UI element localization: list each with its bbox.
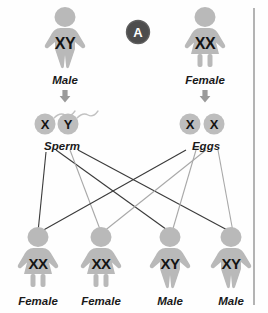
offspring-label: Female	[81, 295, 121, 307]
parent-mother: XXFemale	[185, 7, 226, 103]
cross-line-1	[38, 152, 46, 232]
gamete-letter: X	[186, 117, 195, 132]
cross-line-6	[172, 150, 196, 232]
offspring-3: XYMale	[150, 227, 191, 307]
down-arrow-icon	[60, 90, 71, 103]
cross-line-3	[70, 150, 101, 232]
offspring-1: XXFemale	[18, 227, 59, 307]
gamete-letter: X	[41, 117, 50, 132]
cross-line-7	[103, 150, 206, 232]
offspring-4: XYMale	[211, 227, 252, 307]
gamete-set-eggs: XXEggs	[180, 114, 225, 153]
gametes-row: XYSpermXXEggs	[35, 111, 225, 152]
eggs-label: Eggs	[192, 140, 220, 152]
gamete-to-offspring-lines	[38, 150, 233, 232]
offspring-label: Male	[157, 295, 183, 307]
offspring-label: Male	[218, 295, 244, 307]
offspring-label: Female	[18, 295, 58, 307]
offspring-genotype: XY	[221, 255, 241, 272]
offspring-2: XXFemale	[81, 227, 122, 307]
sperm-tail-icon	[77, 111, 98, 118]
panel-badge: A	[127, 21, 150, 44]
parent-label: Female	[185, 74, 225, 86]
sex-determination-diagram: XYMaleXXFemale A XYSpermXXEggs XXFemaleX…	[0, 0, 268, 313]
cross-line-8	[218, 150, 233, 232]
parent-genotype: XY	[55, 35, 76, 52]
gamete-set-sperm: XYSperm	[35, 111, 99, 152]
parent-father: XYMale	[45, 7, 86, 103]
parent-genotype: XX	[195, 35, 216, 52]
offspring-genotype: XY	[160, 255, 180, 272]
offspring-row: XXFemaleXXFemaleXYMaleXYMale	[18, 227, 252, 307]
parent-label: Male	[52, 74, 78, 86]
panel-badge-letter: A	[133, 25, 143, 40]
gamete-letter: X	[210, 117, 219, 132]
offspring-genotype: XX	[91, 255, 111, 272]
gamete-letter: Y	[64, 117, 73, 132]
offspring-genotype: XX	[28, 255, 48, 272]
down-arrow-icon	[200, 90, 211, 103]
sperm-label: Sperm	[44, 140, 80, 152]
cross-line-5	[40, 150, 186, 232]
diagram-canvas: XYMaleXXFemale A XYSpermXXEggs XXFemaleX…	[0, 0, 268, 313]
